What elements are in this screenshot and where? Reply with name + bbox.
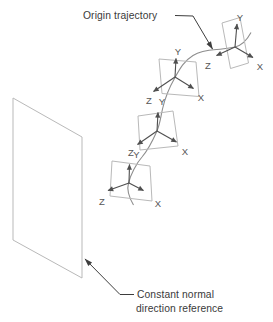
diagram-canvas: Y X Z Y X Z Y X Z <box>0 0 273 322</box>
constant-normal-leader-arrow <box>85 259 134 295</box>
frame-2-x-label: X <box>198 92 205 103</box>
frame-2-y-axis <box>175 59 176 78</box>
constant-normal-label-line1: Constant normal <box>137 289 214 300</box>
frame-4-x-axis <box>129 183 144 191</box>
frame-1-x-label: X <box>257 61 264 72</box>
frame-1-x-axis <box>235 47 253 58</box>
frame-1-y-label: Y <box>237 12 244 23</box>
constant-normal-annotation: Constant normal direction reference <box>85 259 223 314</box>
frame-2-plane <box>159 59 199 97</box>
frame-2-y-label: Y <box>175 46 182 57</box>
frame-3-x-label: X <box>182 146 189 157</box>
frame-4-plane <box>110 161 152 201</box>
frame-1-y-axis <box>235 24 237 47</box>
frame-1-z-label: Z <box>205 60 211 71</box>
frame-4-x-label: X <box>155 198 162 209</box>
constant-normal-reference-plane <box>13 98 82 278</box>
frame-3-y-label: Y <box>159 96 166 107</box>
frames-trajectory-diagram: Y X Z Y X Z Y X Z <box>0 0 273 322</box>
origin-trajectory-leader-arrow <box>175 16 213 50</box>
frame-4-y-label: Y <box>133 149 140 160</box>
frame-2-z-label: Z <box>146 95 152 106</box>
frame-2-x-axis <box>175 77 194 89</box>
frame-4-y-axis <box>129 165 130 184</box>
frame-2: Y X Z <box>146 46 205 106</box>
origin-trajectory-annotation: Origin trajectory <box>83 10 213 49</box>
origin-trajectory-label: Origin trajectory <box>83 10 158 21</box>
frame-1: Y X Z <box>205 12 264 72</box>
frame-4-z-label: Z <box>99 196 105 207</box>
origin-trajectory-curve <box>128 33 251 206</box>
constant-normal-label-line2: direction reference <box>136 303 223 314</box>
frame-3-x-axis <box>157 131 177 142</box>
